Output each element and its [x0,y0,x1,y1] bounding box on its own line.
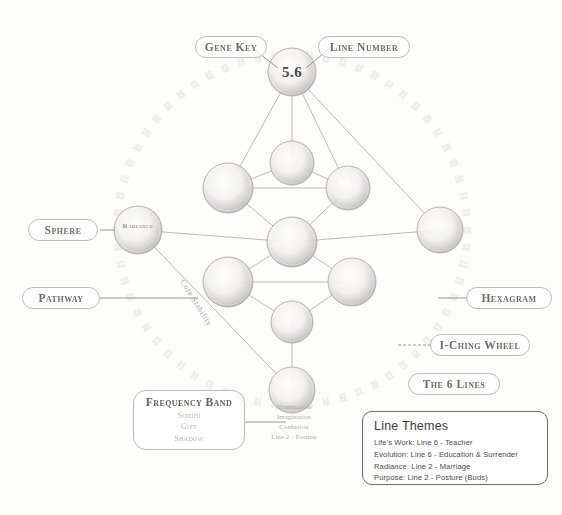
hexagram-glyph: ䷶ [140,126,153,138]
hexagram-glyph: ䷹ [174,88,187,101]
frequency-band-title: Frequency Band [144,396,234,410]
hexagram-glyph: ䷌ [448,157,460,168]
hexagram-glyph: ䷴ [124,157,136,168]
annotation-shadow: Confusion [248,422,340,432]
frequency-band-shadow: Shadow [144,433,234,445]
frequency-band-box[interactable]: Frequency Band Siddhi Gift Shadow [133,390,245,450]
hexagram-glyph: ䷳ [118,174,130,185]
hexagram-glyph: ䷎ [458,191,469,201]
hexagram-glyph: ䷄ [354,62,365,74]
hexagram-glyph: ䷪ [140,321,153,333]
line-theme-row-purpose: Purpose: Line 2 - Posture (Buds) [374,472,536,484]
hexagram-glyph: ䷺ [188,78,200,91]
sphere-right[interactable] [417,207,463,253]
annotation-line-theme: Line 2 - Posture [248,432,340,442]
gene-key-number: 5.6 [268,64,316,81]
annotation-siddhi: Illumination [248,402,340,412]
hexagram-glyph: ䷨ [162,348,175,361]
callout-the-6-lines-label: The 6 Lines [409,378,499,391]
line-themes-title: Line Themes [374,419,536,433]
hexagram-glyph: ䷛ [369,378,381,391]
hexagram-glyph: ䷕ [440,307,453,319]
bottom-sphere-annotation: Illumination Imagination Confusion Line … [248,402,340,442]
hexagram-glyph: ䷦ [188,370,200,383]
annotation-gift: Imagination [248,412,340,422]
hexagram-glyph: ䷮ [114,259,125,269]
line-themes-box[interactable]: Line Themes Life's Work: Line 6 - Teache… [362,411,548,485]
hexagram-glyph: ䷚ [383,370,395,383]
sphere-lower-left[interactable] [203,257,253,307]
sphere-radiance-label: Radiance [108,222,168,230]
hexagram-glyph: ䷆ [383,78,395,91]
hexagram-glyph: ䷫ [131,307,144,319]
hexagram-glyph: ䷈ [410,100,423,113]
callout-iching-wheel-label: I-Ching Wheel [431,339,529,352]
hexagram-glyph: ䷷ [150,112,163,125]
hexagram-glyph: ䷬ [124,292,136,303]
callout-sphere[interactable]: Sphere [28,219,98,241]
hexagram-glyph: ䷒ [458,259,469,269]
hexagram-glyph: ䷻ [203,69,215,82]
callout-pathway[interactable]: Pathway [22,287,100,309]
hexagram-glyph: ䷧ [174,359,187,372]
frequency-band-siddhi: Siddhi [144,410,234,422]
hexagram-glyph: ䷵ [131,141,144,153]
callout-sphere-label: Sphere [29,224,97,237]
callout-hexagram[interactable]: Hexagram [466,287,552,309]
pathway-left-radiance-to-bottom [138,230,292,390]
hexagram-glyph: ䷲ [114,191,125,201]
hexagram-glyph: ䷙ [397,359,410,372]
hexagram-glyph: ䷩ [150,335,163,348]
sphere-radiance[interactable] [114,206,162,254]
callout-line-number-label: Line Number [319,41,409,54]
hexagram-glyph: ䷑ [461,243,472,252]
sphere-lower-mid[interactable] [271,301,313,343]
line-theme-row-radiance: Radiance: Line 2 - Marriage [374,461,536,473]
hexagram-glyph: ䷸ [162,100,175,113]
callout-gene-key-label: Gene Key [196,41,266,54]
sphere-upper-right[interactable] [326,166,370,210]
callout-line-number[interactable]: Line Number [318,36,410,58]
hexagram-glyph: ䷓ [454,276,466,287]
hexagram-glyph: ䷖ [432,321,445,333]
hexagram-glyph: ䷐ [463,226,473,234]
line-theme-row-evolution: Evolution: Line 6 - Education & Surrende… [374,449,536,461]
sphere-upper-mid[interactable] [270,141,314,185]
hexagram-glyph: ䷔ [448,292,460,303]
sphere-centre[interactable] [267,217,317,267]
callout-gene-key[interactable]: Gene Key [195,36,267,58]
hexagram-glyph: ䷏ [461,208,472,217]
sphere-upper-left[interactable] [203,163,253,213]
callout-pathway-label: Pathway [23,292,99,305]
hexagram-glyph: ䷅ [369,69,381,82]
callout-the-6-lines[interactable]: The 6 Lines [408,373,500,395]
frequency-band-gift: Gift [144,421,234,433]
callout-iching-wheel[interactable]: I-Ching Wheel [430,334,530,356]
hexagram-glyph: ䷉ [421,112,434,125]
hexagram-glyph: ䷋ [440,141,453,153]
line-theme-row-lifes-work: Life's Work: Line 6 - Teacher [374,437,536,449]
sphere-lower-right[interactable] [328,258,376,306]
hexagram-glyph: ䷇ [397,88,410,101]
hexagram-glyph: ䷘ [410,348,423,361]
callout-hexagram-label: Hexagram [467,292,551,305]
diagram-canvas: ䷀䷁䷂䷃䷄䷅䷆䷇䷈䷉䷊䷋䷌䷍䷎䷏䷐䷑䷒䷓䷔䷕䷖䷗䷘䷙䷚䷛䷜䷝䷞䷟䷠䷡䷢䷣䷤䷥䷦䷧… [0,0,562,515]
hexagram-glyph: ䷍ [454,174,466,185]
hexagram-glyph: ䷊ [432,126,445,138]
pathway-top-crown-to-right-purpose [292,72,440,230]
hexagram-glyph: ䷼ [219,62,230,74]
hexagram-glyph: ䷜ [354,386,365,398]
hexagram-glyph: ䷭ [118,276,130,287]
